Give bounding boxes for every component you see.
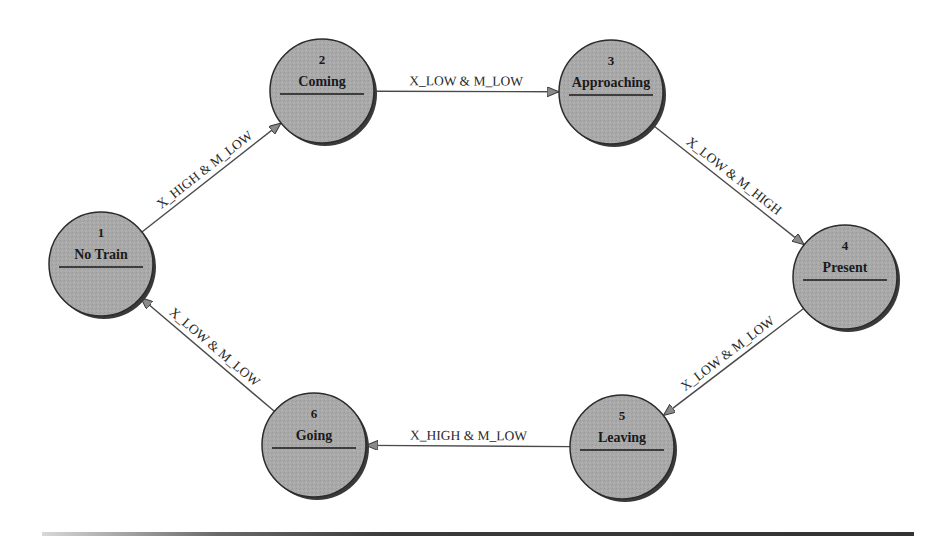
state-number: 1 [98, 225, 105, 240]
transition-3-to-4: X_LOW & M_HIGH [652, 124, 804, 244]
transition-label: X_HIGH & M_LOW [410, 428, 527, 444]
state-node-coming: 2Coming [270, 39, 377, 146]
state-name: Present [823, 260, 868, 275]
transition-arrow [142, 124, 280, 232]
state-name: Approaching [572, 75, 650, 90]
transition-label: X_LOW & M_HIGH [684, 134, 785, 218]
transition-1-to-2: X_HIGH & M_LOW [142, 124, 280, 232]
state-node-approaching: 3Approaching [559, 40, 666, 147]
state-node-no-train: 1No Train [49, 212, 156, 319]
transition-arrow [141, 298, 274, 411]
state-number: 4 [842, 238, 849, 253]
transition-arrow [367, 445, 570, 446]
transition-label: X_LOW & M_LOW [409, 73, 523, 88]
transition-arrow [664, 309, 803, 415]
transition-2-to-3: X_LOW & M_LOW [374, 73, 558, 92]
state-number: 5 [619, 408, 626, 423]
footer-rule [42, 532, 914, 536]
transition-4-to-5: X_LOW & M_LOW [664, 309, 803, 415]
state-node-going: 6Going [262, 393, 369, 500]
state-name: No Train [74, 247, 128, 262]
transition-arrow [652, 124, 804, 244]
transition-6-to-1: X_LOW & M_LOW [141, 298, 274, 411]
state-name: Leaving [598, 430, 646, 445]
state-number: 2 [319, 52, 326, 67]
state-number: 6 [311, 406, 318, 421]
state-node-leaving: 5Leaving [570, 395, 677, 502]
state-diagram: X_HIGH & M_LOWX_LOW & M_LOWX_LOW & M_HIG… [0, 0, 942, 538]
state-name: Going [296, 428, 333, 443]
transition-label: X_LOW & M_LOW [166, 304, 263, 389]
edges-layer: X_HIGH & M_LOWX_LOW & M_LOWX_LOW & M_HIG… [141, 73, 803, 446]
transition-label: X_HIGH & M_LOW [154, 127, 256, 211]
transition-arrow [374, 91, 558, 92]
state-number: 3 [608, 53, 615, 68]
transition-label: X_LOW & M_LOW [678, 313, 778, 394]
transition-5-to-6: X_HIGH & M_LOW [367, 428, 570, 447]
state-node-present: 4Present [793, 225, 900, 332]
state-name: Coming [298, 74, 345, 89]
